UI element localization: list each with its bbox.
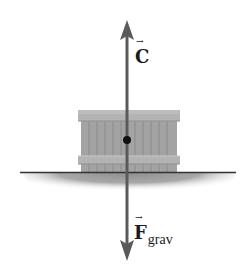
center-of-mass-dot (123, 136, 131, 144)
gravity-force-label: → F grav (134, 222, 173, 248)
free-body-diagram (0, 0, 249, 275)
gravity-force-symbol: F (134, 222, 147, 243)
vector-arrow-icon: → (135, 213, 143, 222)
ground-surface (22, 173, 236, 203)
contact-force-label: → C (135, 46, 149, 67)
vector-arrow-icon: → (136, 37, 144, 46)
gravity-force-subscript: grav (148, 232, 173, 247)
contact-force-symbol: C (135, 46, 149, 67)
